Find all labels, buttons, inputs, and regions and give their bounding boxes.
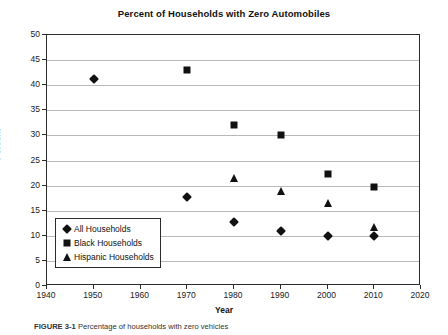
- data-point: [324, 199, 332, 207]
- square-marker-icon: [64, 240, 71, 247]
- chart-title: Percent of Households with Zero Automobi…: [0, 8, 448, 19]
- figure-container: Percent of Households with Zero Automobi…: [0, 0, 448, 335]
- x-axis-label: Year: [0, 305, 448, 315]
- x-tick-label: 1950: [73, 290, 113, 300]
- x-tick-label: 1970: [166, 290, 206, 300]
- y-tick-label: 50: [0, 29, 40, 39]
- y-tick-label: 5: [0, 255, 40, 265]
- x-tick-label: 2000: [307, 290, 347, 300]
- y-tick-label: 25: [0, 155, 40, 165]
- gridline: [47, 211, 419, 212]
- x-tick-mark: [93, 285, 94, 289]
- x-tick-label: 2010: [353, 290, 393, 300]
- y-tick-label: 45: [0, 54, 40, 64]
- y-tick-label: 40: [0, 79, 40, 89]
- data-point: [231, 121, 238, 128]
- legend-item-diamond: All Households: [60, 222, 154, 236]
- data-point: [276, 226, 286, 236]
- data-point: [277, 187, 285, 195]
- data-point: [184, 67, 191, 74]
- x-tick-mark: [186, 285, 187, 289]
- legend-label: All Households: [74, 224, 131, 234]
- legend-item-triangle: Hispanic Households: [60, 250, 154, 264]
- x-tick-mark: [46, 285, 47, 289]
- x-tick-mark: [233, 285, 234, 289]
- data-point: [369, 231, 379, 241]
- y-tick-label: 35: [0, 104, 40, 114]
- y-tick-label: 30: [0, 129, 40, 139]
- legend-item-square: Black Households: [60, 236, 154, 250]
- x-tick-label: 1940: [26, 290, 66, 300]
- triangle-marker-icon: [63, 253, 71, 261]
- x-tick-mark: [373, 285, 374, 289]
- data-point: [323, 231, 333, 241]
- figure-number: FIGURE 3-1: [34, 322, 76, 331]
- legend-symbol: [60, 237, 74, 249]
- x-tick-label: 1980: [213, 290, 253, 300]
- data-point: [89, 74, 99, 84]
- legend-label: Hispanic Households: [74, 252, 154, 262]
- chart-legend: All HouseholdsBlack HouseholdsHispanic H…: [55, 218, 161, 268]
- x-tick-mark: [140, 285, 141, 289]
- caption-text: Percentage of households with zero vehic…: [78, 322, 228, 331]
- figure-caption: FIGURE 3-1 Percentage of households with…: [34, 322, 434, 331]
- data-point: [277, 131, 284, 138]
- x-tick-label: 1990: [260, 290, 300, 300]
- gridline: [47, 110, 419, 111]
- gridline: [47, 135, 419, 136]
- data-point: [230, 174, 238, 182]
- legend-label: Black Households: [74, 238, 142, 248]
- data-point: [371, 184, 378, 191]
- x-tick-mark: [420, 285, 421, 289]
- gridline: [47, 161, 419, 162]
- gridline: [47, 186, 419, 187]
- data-point: [370, 223, 378, 231]
- x-tick-mark: [280, 285, 281, 289]
- gridline: [47, 85, 419, 86]
- gridline: [47, 60, 419, 61]
- legend-symbol: [60, 223, 74, 235]
- data-point: [229, 217, 239, 227]
- y-tick-label: 20: [0, 180, 40, 190]
- x-tick-label: 2020: [400, 290, 440, 300]
- legend-symbol: [60, 251, 74, 263]
- x-tick-label: 1960: [120, 290, 160, 300]
- diamond-marker-icon: [62, 224, 72, 234]
- y-tick-label: 10: [0, 230, 40, 240]
- x-tick-mark: [327, 285, 328, 289]
- y-tick-label: 0: [0, 280, 40, 290]
- data-point: [182, 192, 192, 202]
- data-point: [324, 171, 331, 178]
- y-tick-label: 15: [0, 205, 40, 215]
